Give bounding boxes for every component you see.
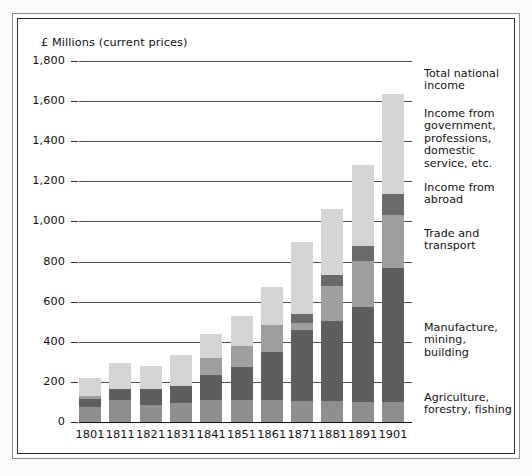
bar-segment: [170, 403, 192, 422]
bar-segment: [352, 165, 374, 245]
legend-item-trade-and-transport: Trade andtransport: [424, 228, 524, 253]
bar-segment: [200, 334, 222, 358]
y-tick-1000: [71, 221, 78, 222]
bar-segment: [200, 400, 222, 422]
bar-segment: [231, 316, 253, 346]
bar-segment: [291, 330, 313, 401]
bar-segment: [291, 314, 313, 323]
bar-1841: [200, 0, 222, 422]
bar-segment: [79, 399, 101, 407]
bar-1801: [79, 0, 101, 422]
y-axis-label: 1,200: [21, 174, 65, 187]
y-axis-label: 400: [21, 335, 65, 348]
legend-item-total-national-income: Total nationalincome: [424, 68, 524, 93]
bar-segment: [352, 246, 374, 261]
y-tick-400: [71, 342, 78, 343]
bar-segment: [382, 94, 404, 194]
bar-segment: [79, 378, 101, 396]
bar-segment: [321, 209, 343, 274]
bar-segment: [321, 286, 343, 321]
legend-label-line: government,: [424, 120, 524, 132]
bar-segment: [291, 242, 313, 314]
bar-segment: [291, 323, 313, 330]
bar-segment: [140, 389, 162, 405]
bar-segment: [321, 401, 343, 422]
bar-segment: [170, 355, 192, 386]
bar-segment: [79, 407, 101, 422]
bar-segment: [109, 389, 131, 400]
bar-segment: [200, 358, 222, 375]
y-axis-label: 1,600: [21, 94, 65, 107]
bar-segment: [140, 405, 162, 422]
bar-segment: [170, 386, 192, 403]
bar-segment: [261, 352, 283, 400]
legend-label-line: forestry, fishing: [424, 404, 524, 416]
bar-segment: [352, 402, 374, 422]
y-tick-1200: [71, 181, 78, 182]
legend-item-income-from-abroad: Income fromabroad: [424, 182, 524, 207]
x-axis-line: [79, 422, 412, 423]
bar-segment: [231, 400, 253, 422]
legend-label-line: income: [424, 80, 524, 92]
bar-segment: [321, 321, 343, 401]
bar-segment: [261, 400, 283, 422]
legend-item-agriculture-forestry-fishing: Agriculture,forestry, fishing: [424, 392, 524, 417]
legend-item-manufacture-mining-building: Manufacture,mining,building: [424, 322, 524, 359]
y-axis-label: 0: [21, 415, 65, 428]
bar-1901: [382, 0, 404, 422]
y-axis-label: 200: [21, 375, 65, 388]
legend-label-line: domestic: [424, 145, 524, 157]
bar-segment: [382, 402, 404, 422]
bar-segment: [231, 367, 253, 400]
x-axis-label: 1901: [373, 428, 413, 441]
bar-segment: [231, 346, 253, 367]
y-tick-1600: [71, 101, 78, 102]
legend-label-line: transport: [424, 240, 524, 252]
bar-1831: [170, 0, 192, 422]
bar-1891: [352, 0, 374, 422]
bar-1881: [321, 0, 343, 422]
bar-segment: [352, 307, 374, 402]
bar-segment: [382, 268, 404, 402]
y-tick-600: [71, 302, 78, 303]
legend-label-line: abroad: [424, 194, 524, 206]
legend-label-line: service, etc.: [424, 158, 524, 170]
bar-segment: [261, 287, 283, 325]
chart-page: £ Millions (current prices) 020040060080…: [0, 0, 532, 476]
bar-segment: [200, 375, 222, 400]
bar-1821: [140, 0, 162, 422]
bar-segment: [140, 366, 162, 389]
bar-segment: [382, 194, 404, 215]
bar-1811: [109, 0, 131, 422]
y-axis-label: 1,000: [21, 214, 65, 227]
legend-item-income-from-government: Income fromgovernment,professions,domest…: [424, 108, 524, 170]
legend-label-line: mining,: [424, 334, 524, 346]
bar-segment: [109, 400, 131, 422]
bar-segment: [352, 261, 374, 307]
bar-segment: [291, 401, 313, 422]
bar-1861: [261, 0, 283, 422]
bar-1851: [231, 0, 253, 422]
plot-area: £ Millions (current prices) 020040060080…: [0, 0, 532, 476]
y-axis-label: 1,800: [21, 54, 65, 67]
bar-segment: [321, 275, 343, 286]
y-axis-label: 1,400: [21, 134, 65, 147]
bar-segment: [382, 215, 404, 267]
legend-label-line: building: [424, 347, 524, 359]
bar-segment: [109, 363, 131, 389]
y-axis-label: 800: [21, 255, 65, 268]
bar-segment: [79, 396, 101, 399]
y-tick-200: [71, 382, 78, 383]
y-tick-1800: [71, 61, 78, 62]
y-axis-label: 600: [21, 295, 65, 308]
y-tick-0: [71, 422, 78, 423]
y-tick-800: [71, 262, 78, 263]
bar-1871: [291, 0, 313, 422]
bar-segment: [261, 325, 283, 352]
y-tick-1400: [71, 141, 78, 142]
